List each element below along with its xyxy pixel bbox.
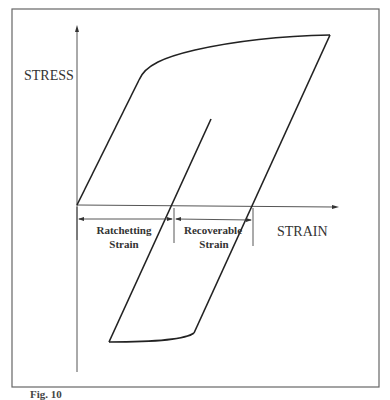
recoverable-left-arrow-icon	[175, 217, 181, 221]
hysteresis-loop	[77, 35, 330, 342]
ratchetting-label-1: Ratchetting	[97, 224, 152, 236]
reverse-curve	[109, 333, 194, 342]
recoverable-label-1: Recoverable	[184, 224, 242, 236]
figure-caption: Fig. 10	[30, 388, 62, 400]
x-axis-label: STRAIN	[277, 224, 328, 239]
unloading-line	[194, 35, 330, 333]
ratchetting-diagram: STRESS STRAIN Ratchetting Strain Recover…	[0, 0, 390, 400]
y-axis-label: STRESS	[24, 68, 74, 83]
ratchetting-left-arrow-icon	[78, 217, 84, 221]
ratchetting-label-2: Strain	[109, 238, 138, 250]
y-axis-arrow-icon	[75, 25, 79, 32]
hardening-curve	[139, 35, 330, 80]
recoverable-right-arrow-icon	[246, 218, 252, 222]
x-axis	[77, 205, 334, 207]
recoverable-label-2: Strain	[199, 238, 228, 250]
x-axis-arrow-icon	[332, 205, 339, 209]
ratchetting-right-arrow-icon	[167, 217, 173, 221]
initial-loading-line	[77, 80, 139, 205]
